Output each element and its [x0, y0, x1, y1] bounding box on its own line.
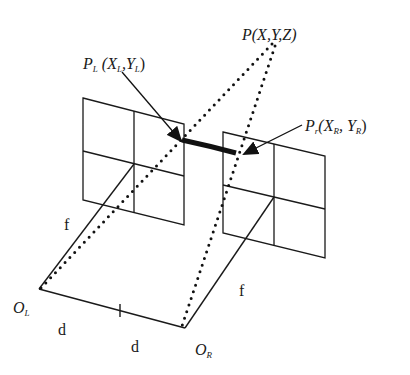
right-focal-length-label: f [239, 282, 245, 299]
left-origin-label: OL [13, 299, 30, 318]
left-projection-pointer-arrow [122, 72, 181, 141]
baseline-left-half-label: d [58, 321, 66, 338]
disparity-bar [182, 140, 236, 153]
right-projection-label: Pr(XR, YR) [304, 117, 367, 136]
world-point-label: P(X,Y,Z) [241, 26, 297, 44]
left-image-plane [83, 98, 184, 225]
right-optical-axis-line [185, 197, 274, 328]
left-optical-axis-line [39, 164, 134, 289]
right-image-plane [223, 132, 325, 258]
left-focal-length-label: f [64, 216, 70, 233]
stereo-vision-diagram: P(X,Y,Z) PL(XL,YL) Pr(XR, YR) f f OL OR … [0, 0, 410, 375]
left-projection-label: PL(XL,YL) [82, 55, 145, 74]
right-projection-ray [182, 46, 275, 326]
right-origin-label: OR [195, 341, 213, 360]
baseline-right-half-label: d [131, 338, 139, 355]
